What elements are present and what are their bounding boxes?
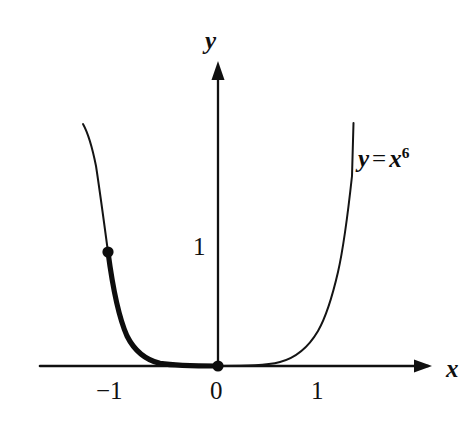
equation-base: x [389, 145, 402, 172]
x-axis-label: x [446, 356, 459, 381]
y-tick-label-one: 1 [193, 234, 206, 259]
highlighted-arc [108, 252, 218, 366]
y-axis-label: y [205, 28, 216, 53]
graph-canvas [0, 0, 472, 422]
equation-lhs: y [358, 145, 369, 172]
equation-operator: = [369, 145, 389, 172]
curve-right-branch [218, 123, 354, 366]
math-figure: y x −1 0 1 1 y=x6 [0, 0, 472, 422]
x-axis-arrowhead [414, 360, 432, 373]
x-tick-label-one: 1 [311, 378, 324, 403]
curve-left-branch-upper [83, 124, 108, 252]
endpoint-dot-left [102, 246, 113, 257]
curve-equation-label: y=x6 [358, 146, 409, 171]
equation-exponent: 6 [402, 144, 410, 161]
origin-dot [212, 360, 223, 371]
y-axis-arrowhead [212, 61, 225, 80]
x-tick-label-zero: 0 [210, 378, 223, 403]
x-tick-label-neg-one: −1 [96, 378, 123, 403]
